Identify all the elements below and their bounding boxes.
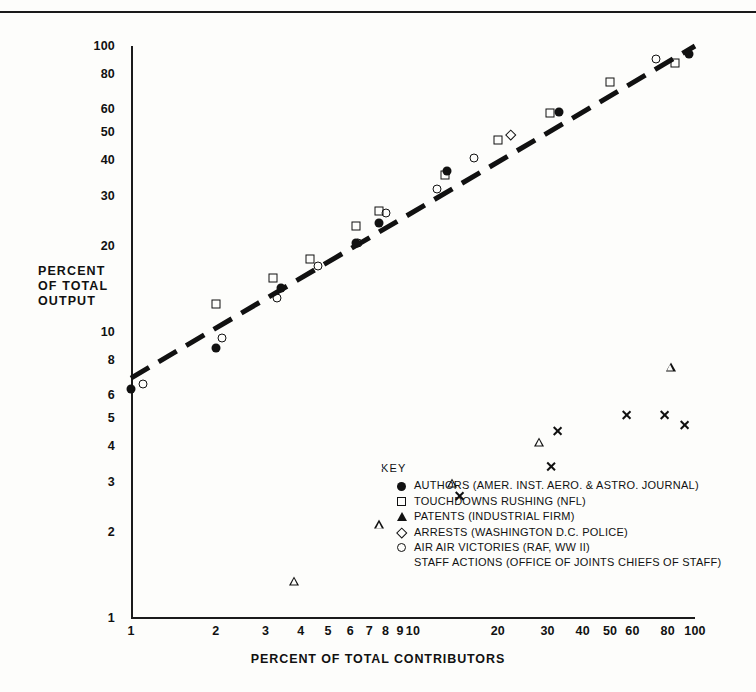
legend-title: KEY bbox=[381, 461, 721, 476]
x-axis-line bbox=[131, 617, 695, 619]
legend-label: TOUCHDOWNS RUSHING (NFL) bbox=[414, 494, 586, 509]
x-tick-minor bbox=[0, 258, 1, 269]
x-tick-minor bbox=[0, 247, 1, 258]
x-tick bbox=[0, 156, 1, 169]
x-tick bbox=[0, 169, 1, 182]
legend-label: STAFF ACTIONS (OFFICE OF JOINTS CHIEFS O… bbox=[414, 555, 721, 570]
data-point-filled-circle bbox=[211, 343, 220, 352]
legend-marker-filled-circle-icon bbox=[394, 482, 409, 491]
legend-marker-triangle-icon bbox=[394, 512, 409, 521]
legend-entry: PATENTS (INDUSTRIAL FIRM) bbox=[381, 509, 721, 524]
legend-marker-diamond-icon bbox=[394, 529, 409, 537]
data-point-x bbox=[679, 420, 690, 431]
x-tick bbox=[0, 221, 1, 234]
chart-legend: KEY AUTHORS (AMER. INST. AERO. & ASTRO. … bbox=[381, 461, 721, 571]
x-tick bbox=[0, 182, 1, 195]
x-tick bbox=[0, 91, 1, 104]
y-axis-title-line: OF TOTAL bbox=[38, 279, 108, 294]
data-point-triangle bbox=[666, 363, 676, 372]
x-tick bbox=[0, 117, 1, 130]
legend-label: PATENTS (INDUSTRIAL FIRM) bbox=[414, 509, 575, 524]
y-axis-line bbox=[131, 46, 133, 618]
x-tick bbox=[0, 208, 1, 221]
legend-label: AIR AIR VICTORIES (RAF, WW II) bbox=[414, 540, 590, 555]
x-tick bbox=[0, 52, 1, 65]
data-point-square bbox=[211, 300, 220, 309]
legend-marker-open-circle-icon bbox=[394, 543, 409, 552]
legend-entry: AUTHORS (AMER. INST. AERO. & ASTRO. JOUR… bbox=[381, 478, 721, 493]
data-point-triangle bbox=[534, 437, 544, 446]
data-point-x bbox=[552, 425, 563, 436]
data-point-open-circle bbox=[273, 293, 282, 302]
data-point-x bbox=[621, 409, 632, 420]
x-tick bbox=[0, 104, 1, 117]
chart-page: 123456810203040506080100 123456789102030… bbox=[0, 0, 756, 692]
legend-label: ARRESTS (WASHINGTON D.C. POLICE) bbox=[414, 525, 628, 540]
y-axis-ticks bbox=[0, 0, 756, 26]
legend-label: AUTHORS (AMER. INST. AERO. & ASTRO. JOUR… bbox=[414, 478, 699, 493]
legend-entry: STAFF ACTIONS (OFFICE OF JOINTS CHIEFS O… bbox=[381, 555, 721, 570]
data-point-open-circle bbox=[138, 379, 147, 388]
x-tick bbox=[0, 195, 1, 208]
x-axis-ticks bbox=[0, 26, 756, 269]
x-tick bbox=[0, 65, 1, 78]
x-tick bbox=[0, 234, 1, 247]
legend-marker-square-icon bbox=[394, 497, 409, 506]
data-point-x bbox=[659, 410, 670, 421]
legend-entries: AUTHORS (AMER. INST. AERO. & ASTRO. JOUR… bbox=[381, 478, 721, 570]
x-tick bbox=[0, 39, 1, 52]
data-point-filled-circle bbox=[276, 284, 285, 293]
data-point-square bbox=[269, 273, 278, 282]
x-tick bbox=[0, 130, 1, 143]
x-tick bbox=[0, 26, 1, 39]
x-axis-title: PERCENT OF TOTAL CONTRIBUTORS bbox=[0, 652, 756, 666]
y-axis-title-line: PERCENT bbox=[38, 264, 108, 279]
legend-entry: AIR AIR VICTORIES (RAF, WW II) bbox=[381, 540, 721, 555]
legend-entry: ARRESTS (WASHINGTON D.C. POLICE) bbox=[381, 525, 721, 540]
legend-marker-x-icon bbox=[394, 558, 409, 569]
data-point-open-circle bbox=[217, 334, 226, 343]
plot-area: 123456810203040506080100 123456789102030… bbox=[0, 0, 756, 692]
y-axis-title: PERCENTOF TOTALOUTPUT bbox=[38, 264, 108, 309]
x-tick bbox=[0, 78, 1, 91]
x-tick bbox=[0, 143, 1, 156]
data-point-triangle bbox=[289, 576, 299, 585]
legend-entry: TOUCHDOWNS RUSHING (NFL) bbox=[381, 494, 721, 509]
y-axis-title-line: OUTPUT bbox=[38, 294, 108, 309]
